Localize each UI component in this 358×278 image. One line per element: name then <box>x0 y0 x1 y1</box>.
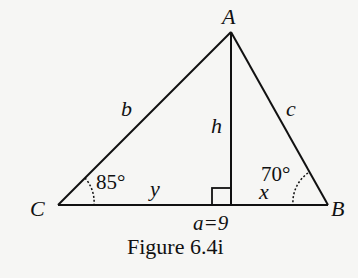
triangle-diagram: A C B b c h 85° 70° y x a=9 Figure 6.4i <box>0 0 358 278</box>
angle-arc-c <box>85 178 94 205</box>
side-a-label: a=9 <box>193 211 229 235</box>
angle-arc-b <box>293 173 308 205</box>
angle-c-label: 85° <box>96 170 125 194</box>
figure-caption: Figure 6.4i <box>127 234 224 259</box>
vertex-c-label: C <box>30 196 45 221</box>
vertex-b-label: B <box>331 196 344 221</box>
altitude-h-label: h <box>211 113 222 138</box>
side-c-label: c <box>286 96 296 121</box>
side-b <box>58 32 231 205</box>
segment-x-label: x <box>258 179 269 204</box>
segment-y-label: y <box>148 176 160 201</box>
side-b-label: b <box>121 96 132 121</box>
right-angle-mark <box>212 188 231 205</box>
vertex-a-label: A <box>220 4 236 29</box>
